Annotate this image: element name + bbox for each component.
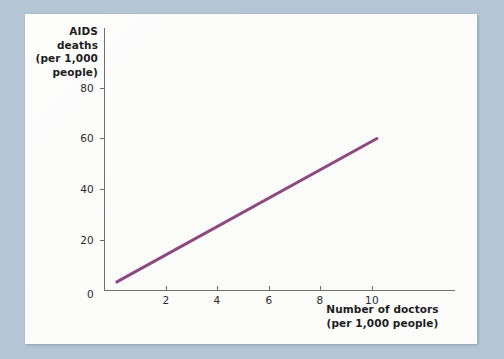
chart-series-layer <box>0 0 504 359</box>
chart-plot-area: 80 60 40 20 0 2 4 6 8 10 AIDS deaths (pe… <box>0 0 504 359</box>
trend-line-aids-vs-doctors <box>117 139 377 282</box>
screenshot-root: 80 60 40 20 0 2 4 6 8 10 AIDS deaths (pe… <box>0 0 504 359</box>
